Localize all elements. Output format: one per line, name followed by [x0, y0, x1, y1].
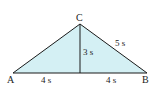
vertex-b-label: B: [142, 74, 149, 85]
left-base-length: 4 s: [41, 75, 52, 85]
vertex-a-label: A: [7, 74, 15, 85]
height-length: 3 s: [83, 47, 94, 57]
right-base-length: 4 s: [106, 75, 117, 85]
triangle-diagram: C A B 4 s 4 s 3 s 5 s: [0, 0, 151, 89]
hypotenuse-length: 5 s: [115, 38, 126, 48]
vertex-c-label: C: [76, 12, 83, 23]
